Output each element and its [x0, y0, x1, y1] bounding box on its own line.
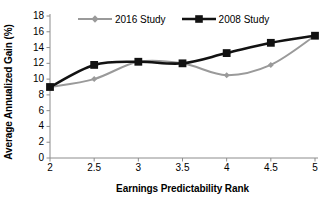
- legend-entry-2016: 2016 Study: [78, 13, 166, 25]
- data-point-marker: [224, 72, 230, 78]
- data-point-marker: [179, 59, 187, 67]
- data-point-marker: [223, 49, 231, 57]
- legend-label-2008: 2008 Study: [219, 14, 270, 25]
- data-point-marker: [311, 32, 319, 40]
- chart-legend: 2016 Study 2008 Study: [78, 13, 269, 25]
- data-point-marker: [267, 39, 275, 47]
- plot-area: [0, 0, 331, 204]
- chart-container: Average Annualized Gain (%) Earnings Pre…: [0, 0, 331, 204]
- data-point-marker: [90, 61, 98, 69]
- legend-swatch-2008-icon: [182, 13, 216, 25]
- data-point-marker: [46, 83, 54, 91]
- legend-swatch-2016-icon: [78, 13, 112, 25]
- data-point-marker: [134, 58, 142, 66]
- data-point-marker: [91, 76, 97, 82]
- legend-entry-2008: 2008 Study: [182, 13, 270, 25]
- legend-label-2016: 2016 Study: [115, 14, 166, 25]
